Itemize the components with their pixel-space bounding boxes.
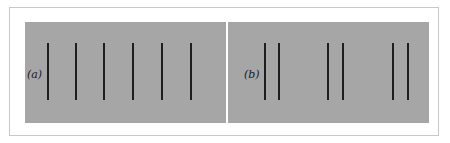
grating-line xyxy=(264,43,266,100)
panel-b-label: (b) xyxy=(244,68,260,81)
grating-line xyxy=(342,43,344,100)
grating-line xyxy=(407,43,409,100)
panel-a-label: (a) xyxy=(27,68,42,81)
grating-line xyxy=(278,43,280,100)
grating-line xyxy=(47,43,49,100)
grating-line xyxy=(75,43,77,100)
grating-line xyxy=(103,43,105,100)
grating-line xyxy=(190,43,192,100)
grating-line xyxy=(392,43,394,100)
panel-b: (b) xyxy=(228,22,429,123)
grating-line xyxy=(327,43,329,100)
grating-line xyxy=(132,43,134,100)
panel-a: (a) xyxy=(25,22,226,123)
grating-line xyxy=(161,43,163,100)
